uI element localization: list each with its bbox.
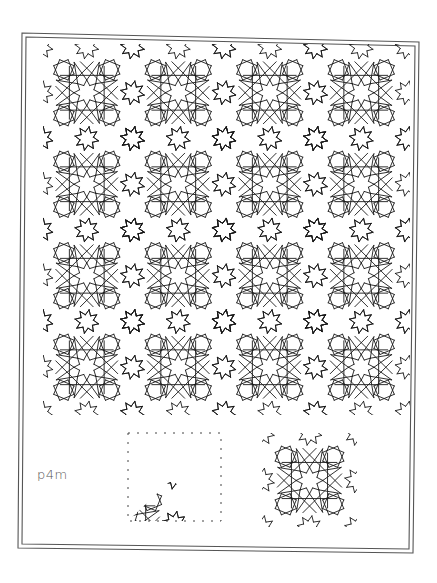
figure-canvas [0, 0, 437, 583]
symmetry-group-label: p4m [37, 467, 68, 482]
unit-tile-panel [250, 421, 369, 540]
main-tiling-pattern [29, 35, 418, 424]
fundamental-domain-panel [70, 433, 280, 582]
